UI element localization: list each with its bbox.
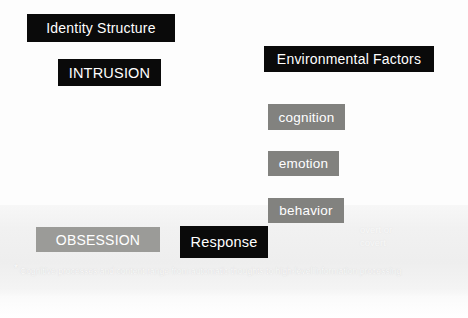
node-obsession: OBSESSION bbox=[36, 227, 160, 252]
footnote-text: Cognitive processes and content range fr… bbox=[20, 266, 450, 277]
footnote-marker: * bbox=[14, 263, 18, 274]
concept-diagram: Identity Structure INTRUSION Environment… bbox=[0, 0, 468, 318]
covert-annotation-line-1: overt or bbox=[360, 223, 422, 236]
background-wash-edge bbox=[0, 296, 468, 318]
node-identity-structure: Identity Structure bbox=[27, 14, 175, 42]
node-covert-annotation: overt or covert bbox=[360, 221, 422, 251]
node-cognition: cognition bbox=[268, 104, 345, 130]
node-response: Response bbox=[180, 226, 268, 258]
node-environmental-factors: Environmental Factors bbox=[264, 46, 434, 72]
node-emotion: emotion bbox=[268, 151, 339, 176]
covert-annotation-line-2: covert bbox=[360, 236, 422, 249]
node-behavior: behavior bbox=[268, 198, 344, 223]
node-intrusion: INTRUSION bbox=[58, 59, 161, 86]
